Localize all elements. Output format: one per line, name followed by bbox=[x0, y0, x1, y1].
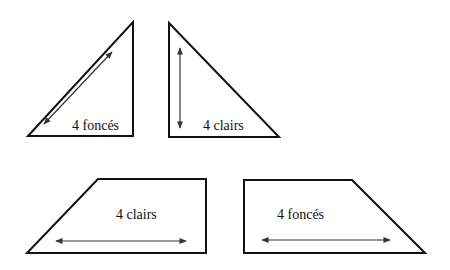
triangle-right: 4 clairs bbox=[169, 23, 279, 137]
trapezoid-left-label: 4 clairs bbox=[116, 207, 157, 222]
trapezoid-left: 4 clairs bbox=[27, 179, 206, 253]
triangle-left-label: 4 foncés bbox=[72, 118, 119, 133]
trapezoid-right: 4 foncés bbox=[244, 180, 425, 253]
trapezoid-right-label: 4 foncés bbox=[277, 207, 324, 222]
diagonal-arrow-icon bbox=[44, 52, 112, 124]
triangle-left: 4 foncés bbox=[28, 22, 133, 136]
diagram-canvas: 4 foncés 4 clairs 4 clairs 4 foncés bbox=[0, 0, 450, 270]
triangle-right-label: 4 clairs bbox=[203, 118, 244, 133]
